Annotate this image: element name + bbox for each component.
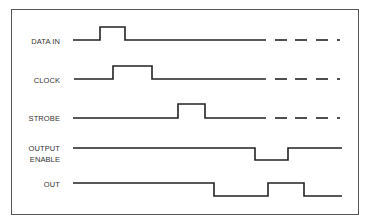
waveform-out: [73, 183, 342, 196]
waveform-data-in: [73, 27, 340, 40]
waveform-clock: [74, 66, 340, 79]
waveform-output-enable: [73, 148, 342, 160]
waveforms: [0, 0, 369, 223]
waveform-strobe: [73, 104, 340, 118]
